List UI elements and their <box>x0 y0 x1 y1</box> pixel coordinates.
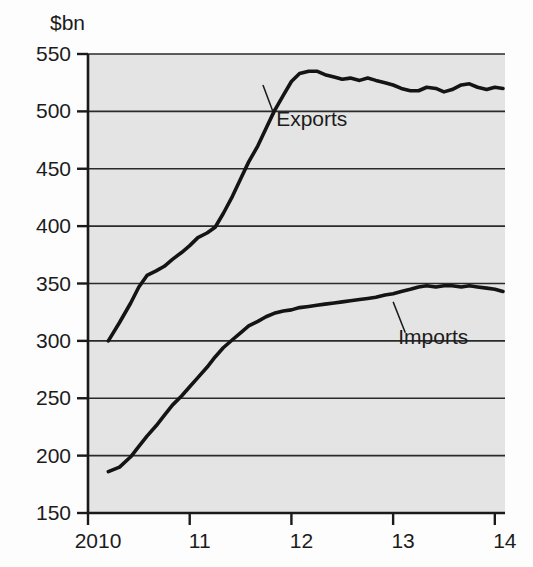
chart-container: 150200250300350400450500550 201011121314… <box>0 0 533 567</box>
y-axis-unit-label: $bn <box>50 11 85 34</box>
y-tick-label: 150 <box>36 501 71 524</box>
y-tick-label: 200 <box>36 444 71 467</box>
x-tick-label: 14 <box>493 529 517 552</box>
y-tick-label: 450 <box>36 157 71 180</box>
y-tick-label: 250 <box>36 386 71 409</box>
y-tick-label: 400 <box>36 214 71 237</box>
annotation-label-imports: Imports <box>398 325 468 348</box>
y-tick-label: 300 <box>36 329 71 352</box>
x-tick-label: 2010 <box>75 529 122 552</box>
x-tick-label: 12 <box>290 529 313 552</box>
x-tick-label: 13 <box>391 529 414 552</box>
y-tick-label: 550 <box>36 42 71 65</box>
x-tick-label: 11 <box>189 529 211 552</box>
y-tick-label: 350 <box>36 272 71 295</box>
annotation-label-exports: Exports <box>276 107 347 130</box>
y-tick-label: 500 <box>36 99 71 122</box>
line-chart: 150200250300350400450500550 201011121314… <box>0 0 533 567</box>
y-axis-tick-labels: 150200250300350400450500550 <box>36 42 71 524</box>
